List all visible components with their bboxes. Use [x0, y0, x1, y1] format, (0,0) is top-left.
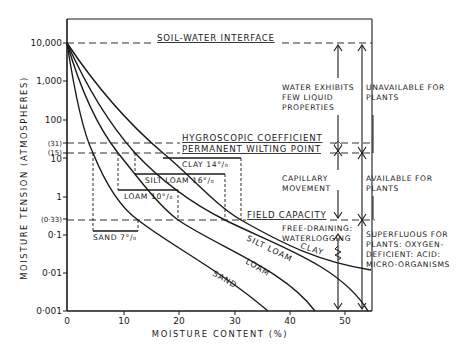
soil-water-interface-label: SOIL-WATER INTERFACE [157, 33, 275, 43]
sand-box-label: SAND 7°/₀ [93, 233, 137, 242]
capillary-label-1: CAPILLARY [282, 174, 328, 183]
x-axis-tick-labels: 0 10 20 30 40 50 [64, 316, 351, 326]
x-tick-50: 50 [339, 316, 351, 326]
x-tick-0: 0 [64, 316, 70, 326]
loam-box-label: LOAM 10°/₀ [124, 192, 173, 201]
superfluous-label-1: SUPERFLUOUS FOR [366, 230, 448, 239]
water-exhibits-label-1: WATER EXHIBITS [282, 83, 354, 92]
y-axis-title: MOISTURE TENSION (ATMOSPHERES) [19, 76, 29, 280]
y-tick-10000: 10,000 [31, 38, 63, 48]
available-water-labels: SAND 7°/₀ LOAM 10°/₀ SILT LOAM 16°/₀ CLA… [93, 160, 228, 242]
x-axis-title: MOISTURE CONTENT (%) [152, 329, 288, 339]
unavailable-label-2: PLANTS [366, 93, 399, 102]
x-tick-30: 30 [229, 316, 241, 326]
available-label-2: PLANTS [366, 184, 399, 193]
free-draining-label-1: FREE-DRAINING: [282, 224, 353, 233]
water-exhibits-label-3: PROPERTIES [282, 103, 334, 112]
sand-curve-label: SAND [211, 269, 239, 290]
superfluous-label-3: DEFICIENT: ACID: [366, 250, 441, 259]
y-tick-10: 10 [51, 154, 63, 164]
soil-moisture-chart: 10,000 1,000 100 (31) (15) 10 1 (0·33) 0… [0, 0, 466, 357]
zone-labels: WATER EXHIBITS FEW LIQUID PROPERTIES UNA… [282, 83, 450, 269]
x-tick-10: 10 [118, 316, 130, 326]
y-tick-001: 0·01 [42, 268, 62, 278]
water-exhibits-label-2: FEW LIQUID [282, 93, 333, 102]
x-tick-40: 40 [284, 316, 296, 326]
silt-loam-box-label: SILT LOAM 16°/₀ [145, 176, 214, 185]
superfluous-label-2: PLANTS: OXYGEN- [366, 240, 444, 249]
available-label-1: AVAILABLE FOR [366, 174, 433, 183]
unavailable-label-1: UNAVAILABLE FOR [366, 83, 445, 92]
hygroscopic-coefficient-label: HYGROSCOPIC COEFFICIENT [182, 133, 322, 143]
capillary-label-2: MOVEMENT [282, 184, 331, 193]
permanent-wilting-point-label: PERMANENT WILTING POINT [182, 144, 321, 154]
y-tick-033: (0·33) [41, 216, 62, 224]
y-tick-1000: 1,000 [36, 76, 62, 86]
y-axis-tick-labels: 10,000 1,000 100 (31) (15) 10 1 (0·33) 0… [31, 38, 63, 316]
y-tick-0001: 0·001 [36, 306, 62, 316]
loam-curve-label: LOAM [244, 257, 272, 278]
clay-box-label: CLAY 14°/₀ [182, 160, 228, 169]
y-tick-01: 0·1 [48, 230, 62, 240]
free-draining-label-2: WATERLOGGING [282, 234, 351, 243]
y-tick-100: 100 [45, 115, 62, 125]
x-tick-20: 20 [173, 316, 185, 326]
y-tick-1: 1 [56, 192, 62, 202]
field-capacity-label: FIELD CAPACITY [247, 210, 327, 220]
y-tick-31: (31) [48, 140, 63, 148]
superfluous-label-4: MICRO-ORGANISMS [366, 260, 450, 269]
